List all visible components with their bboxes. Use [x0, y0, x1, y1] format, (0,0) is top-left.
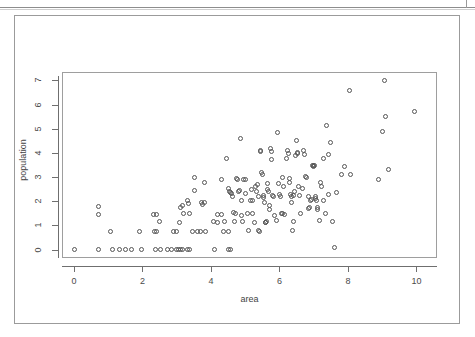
y-axis-title: population	[18, 120, 28, 200]
x-axis-title: area	[62, 294, 437, 304]
y-tick-label: 7	[33, 70, 43, 90]
y-tick-label: 6	[33, 95, 43, 115]
x-tick-label: 6	[267, 276, 291, 286]
y-tick-label: 3	[33, 167, 43, 187]
y-tick-mark	[52, 250, 58, 251]
x-tick-label: 0	[62, 276, 86, 286]
y-tick-label: 5	[33, 119, 43, 139]
x-tick-label: 4	[199, 276, 223, 286]
y-tick-mark	[52, 201, 58, 202]
y-tick-mark	[52, 105, 58, 106]
scatter-plot: 01234567 0246810 area population	[0, 0, 475, 337]
x-tick-label: 10	[404, 276, 428, 286]
y-tick-mark	[52, 153, 58, 154]
y-tick-mark	[52, 225, 58, 226]
y-tick-mark	[52, 80, 58, 81]
x-axis-line	[62, 266, 437, 267]
plot-panel-frame	[62, 72, 437, 258]
y-tick-mark	[52, 129, 58, 130]
y-tick-label: 4	[33, 143, 43, 163]
page-root: 01234567 0246810 area population	[0, 0, 475, 337]
y-tick-label: 2	[33, 191, 43, 211]
y-tick-label: 1	[33, 215, 43, 235]
x-tick-mark	[142, 266, 143, 272]
x-tick-label: 8	[336, 276, 360, 286]
x-tick-mark	[279, 266, 280, 272]
x-tick-mark	[416, 266, 417, 272]
y-tick-label: 0	[33, 240, 43, 260]
y-tick-mark	[52, 177, 58, 178]
y-axis-line	[58, 76, 59, 258]
x-tick-mark	[348, 266, 349, 272]
x-tick-mark	[74, 266, 75, 272]
x-tick-mark	[211, 266, 212, 272]
x-tick-label: 2	[130, 276, 154, 286]
